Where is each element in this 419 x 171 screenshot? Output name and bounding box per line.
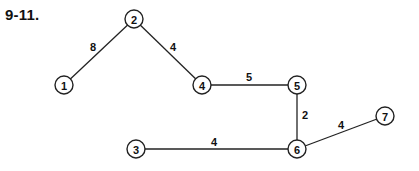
node-5: 5: [288, 76, 306, 94]
edge-weight-6-7: 4: [338, 119, 345, 131]
node-1: 1: [55, 76, 73, 94]
node-label: 6: [294, 144, 300, 156]
nodes-group: 1234567: [55, 10, 394, 158]
node-label: 4: [199, 80, 206, 92]
edge-weight-1-2: 8: [90, 41, 96, 53]
node-2: 2: [125, 10, 143, 28]
node-label: 2: [131, 14, 137, 26]
node-label: 7: [382, 111, 388, 123]
edge-weights-group: 845244: [90, 41, 345, 148]
graph-diagram: 845244 1234567: [0, 0, 419, 171]
node-6: 6: [288, 140, 306, 158]
edge-weight-2-4: 4: [170, 41, 177, 53]
edges-group: [64, 19, 385, 149]
edge-weight-3-6: 4: [211, 136, 218, 148]
edge-1-2: [64, 19, 134, 85]
node-label: 1: [61, 80, 67, 92]
node-label: 5: [294, 80, 300, 92]
edge-2-4: [134, 19, 202, 85]
edge-weight-4-5: 5: [246, 71, 252, 83]
node-4: 4: [193, 76, 211, 94]
node-3: 3: [127, 140, 145, 158]
node-7: 7: [376, 107, 394, 125]
node-label: 3: [133, 144, 139, 156]
edge-weight-5-6: 2: [302, 109, 308, 121]
